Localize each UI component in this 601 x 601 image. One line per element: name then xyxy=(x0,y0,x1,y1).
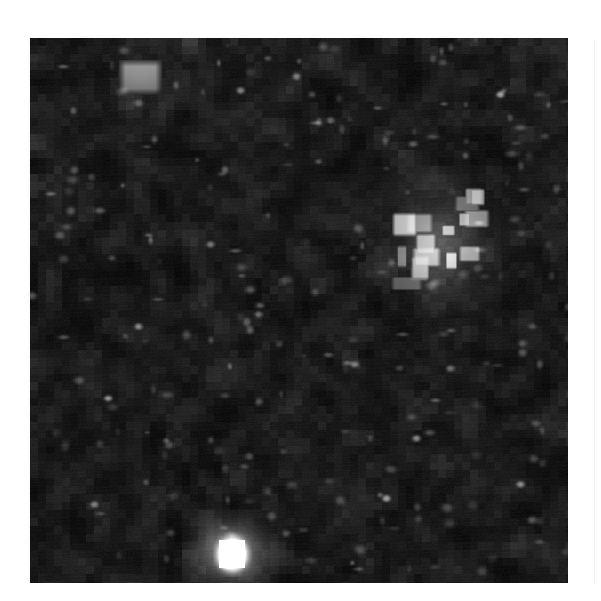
heatmap-canvas xyxy=(30,38,568,583)
grayscale-image-plate xyxy=(30,38,568,583)
figure-page xyxy=(0,0,601,601)
scanner-rule-line xyxy=(594,40,595,585)
